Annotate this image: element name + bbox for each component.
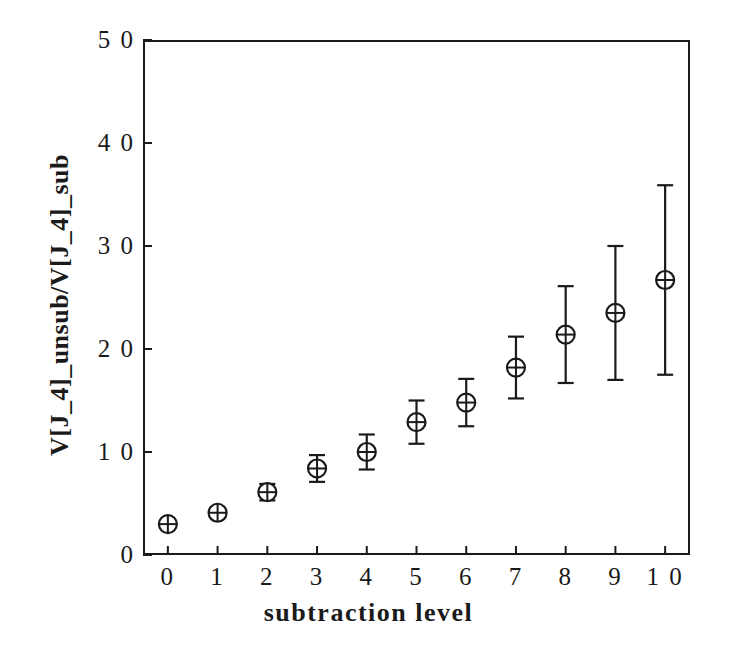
y-tick-label: 2 0 bbox=[98, 336, 135, 361]
y-tick-label: 4 0 bbox=[98, 130, 135, 155]
figure-canvas: 01 02 03 04 05 0 01234567891 0 subtracti… bbox=[0, 0, 737, 654]
y-axis-title: V[J_4]_unsub/V[J_4]_sub bbox=[45, 25, 75, 585]
y-tick-label: 3 0 bbox=[98, 233, 135, 258]
y-tick-label: 5 0 bbox=[98, 27, 135, 52]
y-tick-label: 1 0 bbox=[98, 439, 135, 464]
x-tick-label: 1 0 bbox=[625, 564, 705, 589]
plot-frame bbox=[143, 40, 690, 555]
x-axis-title: subtraction level bbox=[0, 598, 737, 628]
